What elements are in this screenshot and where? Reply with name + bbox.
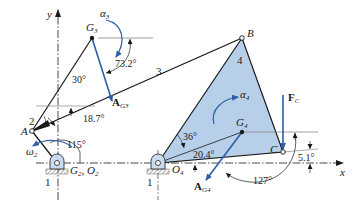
angle-label-115: 115° [67,139,86,150]
label-g2-o2: G2, O2 [70,164,99,178]
linkage-diagram: y x [0,0,359,206]
label-c: C [270,143,278,155]
joint-a [30,129,35,134]
ground-support-o2 [46,154,68,174]
joint-c [281,150,286,155]
label-link-3: 3 [156,65,162,77]
angle-arc-30 [48,118,52,122]
label-ag3: AG3 [112,96,129,110]
label-b: B [247,27,254,39]
x-axis-label: x [339,166,345,178]
label-o4: O4 [172,163,184,177]
label-omega2: ω2 [26,145,38,159]
angle-label-20-4: 20.4° [193,149,215,160]
angle-label-30: 30° [72,74,86,85]
alpha3-arc [106,20,122,57]
label-ground-right: 1 [147,176,153,188]
pivot-o4 [156,161,161,166]
label-g3: G3 [86,21,98,35]
joint-b [240,36,245,41]
label-ground-left: 1 [45,176,51,188]
angle-label-18-7: 18.7° [83,113,105,124]
y-axis-label: y [46,8,52,20]
label-link-2: 2 [29,115,35,127]
link-4-triangle [158,38,283,163]
label-link-4: 4 [237,54,243,66]
pivot-o2 [55,161,60,166]
center-of-mass-g4 [240,130,244,134]
label-fc: FC [288,91,300,105]
center-of-mass-g3 [90,36,94,40]
label-ag4: AG4 [194,180,211,194]
angle-label-5-1: 5.1° [298,152,315,163]
angle-label-36: 36° [183,131,197,142]
label-alpha3: α3 [100,7,110,21]
angle-label-127: 127° [253,175,272,186]
angle-label-73-2: 73.2° [115,58,137,69]
ag3-acceleration-vector [92,38,112,101]
label-a: A [20,125,28,137]
angle-arrow-30 [52,122,55,126]
